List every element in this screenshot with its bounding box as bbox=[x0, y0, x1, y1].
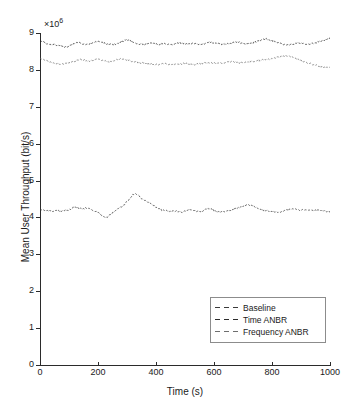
legend-line-swatch bbox=[215, 319, 239, 320]
chart-figure: ×106 0123456789 02004006008001000 Time (… bbox=[0, 0, 346, 418]
x-axis-label: Time (s) bbox=[40, 386, 330, 397]
x-tick-label: 600 bbox=[194, 368, 234, 377]
legend-item[interactable]: Frequency ANBR bbox=[215, 326, 321, 337]
legend-line-swatch bbox=[215, 307, 239, 308]
legend: BaselineTime ANBRFrequency ANBR bbox=[210, 297, 326, 343]
y-axis-label: Mean User Throughput (bit/s) bbox=[20, 77, 32, 317]
legend-item[interactable]: Baseline bbox=[215, 302, 321, 313]
legend-label: Frequency ANBR bbox=[243, 327, 309, 337]
legend-label: Time ANBR bbox=[243, 315, 287, 325]
series-line bbox=[40, 193, 330, 217]
y-tick-label: 8 bbox=[0, 65, 34, 74]
y-axis-exponent-label: ×106 bbox=[44, 16, 63, 29]
x-tick-label: 800 bbox=[252, 368, 292, 377]
series-line bbox=[40, 55, 330, 68]
y-axis-exponent-prefix: ×10 bbox=[44, 19, 59, 29]
y-tick-label: 9 bbox=[0, 28, 34, 37]
x-tick-label: 1000 bbox=[310, 368, 346, 377]
x-axis-line bbox=[40, 365, 330, 366]
x-tick-label: 200 bbox=[78, 368, 118, 377]
series-line bbox=[40, 37, 330, 47]
legend-label: Baseline bbox=[243, 303, 276, 313]
x-tick-mark bbox=[330, 362, 331, 366]
y-tick-label: 1 bbox=[0, 323, 34, 332]
y-axis-exponent-value: 6 bbox=[59, 17, 63, 24]
x-tick-label: 400 bbox=[136, 368, 176, 377]
legend-item[interactable]: Time ANBR bbox=[215, 314, 321, 325]
legend-line-swatch bbox=[215, 331, 239, 332]
x-tick-label: 0 bbox=[20, 368, 60, 377]
y-axis-label-wrapper: Mean User Throughput (bit/s) bbox=[20, 77, 34, 317]
